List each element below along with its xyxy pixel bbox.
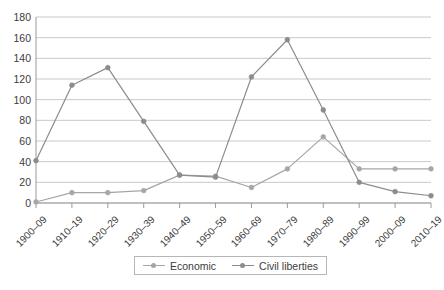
y-tick-label-60: 60: [19, 136, 31, 146]
data-point-1-3[interactable]: [141, 119, 146, 124]
data-point-1-2[interactable]: [105, 65, 110, 70]
legend-item-economic[interactable]: Economic: [143, 260, 216, 272]
series-line-0: [36, 137, 431, 202]
legend-label: Economic: [170, 260, 216, 272]
data-point-1-1[interactable]: [70, 83, 75, 88]
y-tick-label-0: 0: [25, 198, 31, 208]
data-point-1-6[interactable]: [249, 75, 254, 80]
y-tick-label-80: 80: [19, 115, 31, 125]
data-point-0-10[interactable]: [393, 167, 398, 172]
series-line-1: [36, 40, 431, 196]
data-point-0-6[interactable]: [249, 185, 254, 190]
legend-item-civil-liberties[interactable]: Civil liberties: [232, 260, 318, 272]
legend-swatch-icon: [232, 262, 254, 270]
data-point-1-5[interactable]: [213, 175, 218, 180]
data-point-1-8[interactable]: [321, 108, 326, 113]
data-point-0-1[interactable]: [70, 190, 75, 195]
data-point-0-0[interactable]: [34, 200, 39, 205]
data-point-0-7[interactable]: [285, 167, 290, 172]
data-point-1-10[interactable]: [393, 189, 398, 194]
data-point-0-2[interactable]: [105, 190, 110, 195]
legend-label: Civil liberties: [259, 260, 318, 272]
y-tick-label-100: 100: [13, 95, 31, 105]
y-tick-label-40: 40: [19, 157, 31, 167]
y-tick-label-20: 20: [19, 177, 31, 187]
data-point-1-11[interactable]: [429, 193, 434, 198]
y-tick-label-180: 180: [13, 12, 31, 22]
chart-legend[interactable]: EconomicCivil liberties: [134, 256, 327, 275]
data-point-1-9[interactable]: [357, 180, 362, 185]
y-tick-label-160: 160: [13, 33, 31, 43]
legend-swatch-icon: [143, 262, 165, 270]
y-tick-label-120: 120: [13, 74, 31, 84]
data-point-0-8[interactable]: [321, 134, 326, 139]
data-point-1-7[interactable]: [285, 37, 290, 42]
data-point-1-4[interactable]: [177, 173, 182, 178]
data-point-0-9[interactable]: [357, 167, 362, 172]
data-point-1-0[interactable]: [34, 158, 39, 163]
y-tick-label-140: 140: [13, 53, 31, 63]
data-point-0-11[interactable]: [429, 167, 434, 172]
data-point-0-3[interactable]: [141, 188, 146, 193]
